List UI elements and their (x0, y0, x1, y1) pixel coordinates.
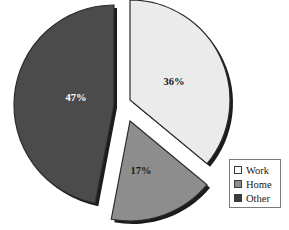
legend-swatch-home-icon (234, 180, 242, 188)
pie-label-home: 17% (131, 165, 152, 176)
legend-swatch-work-icon (234, 166, 242, 174)
legend-label-other: Other (246, 193, 270, 204)
legend-item-work[interactable]: Work (234, 163, 277, 177)
legend-swatch-other-icon (234, 194, 242, 202)
legend-label-work: Work (246, 165, 269, 176)
pie-label-work: 36% (164, 76, 185, 87)
legend-item-home[interactable]: Home (234, 177, 277, 191)
pie-slices (14, 0, 230, 221)
legend-label-home: Home (246, 179, 272, 190)
pie-chart-figure: 36% 17% 47% Work Home Other (0, 0, 289, 230)
pie-slice-other[interactable] (14, 5, 114, 203)
chart-legend: Work Home Other (229, 159, 281, 208)
pie-label-other: 47% (66, 92, 87, 103)
legend-item-other[interactable]: Other (234, 191, 277, 205)
